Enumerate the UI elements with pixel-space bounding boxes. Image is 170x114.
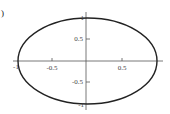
y-tick-label: -1 — [78, 101, 84, 109]
y-tick-label: 0.5 — [74, 35, 83, 43]
x-tick-label: -1 — [13, 63, 19, 71]
x-tick-label: -0.5 — [46, 64, 58, 72]
ellipse-plot: ) -1 -0.5 0.5 1 0.5 -0.5 -1 — [0, 0, 170, 114]
panel-label: ) — [1, 8, 4, 18]
y-tick-label: 1 — [81, 14, 85, 22]
x-tick-label: 0.5 — [118, 64, 127, 72]
y-tick-label: -0.5 — [72, 78, 84, 86]
